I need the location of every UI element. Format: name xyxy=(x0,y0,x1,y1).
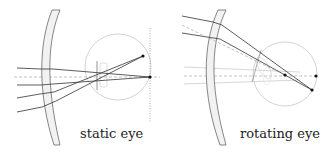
ray-axial-top xyxy=(17,68,150,77)
static-eye-caption: static eye xyxy=(80,126,143,141)
rotated-fovea-point xyxy=(310,88,313,91)
ray-axial-bottom xyxy=(17,77,150,85)
spectacle-lens-rotating xyxy=(206,10,226,145)
rotating-eye-caption: rotating eye xyxy=(240,126,320,141)
straight-ray-top xyxy=(184,67,300,72)
oblique-ray-bottom xyxy=(182,33,312,90)
axial-image-point xyxy=(148,75,151,78)
ray-offaxis-bottom xyxy=(17,56,143,112)
offaxis-image-point xyxy=(141,54,144,57)
spectacle-lens xyxy=(42,10,60,145)
center-of-rotation xyxy=(283,73,286,76)
iris-rotated xyxy=(252,50,261,82)
static-eye-panel xyxy=(14,10,160,145)
rotating-eye-panel xyxy=(182,10,318,145)
straight-ray-bottom xyxy=(184,80,300,84)
eyeball xyxy=(85,34,151,100)
axial-fovea-point xyxy=(314,74,317,77)
